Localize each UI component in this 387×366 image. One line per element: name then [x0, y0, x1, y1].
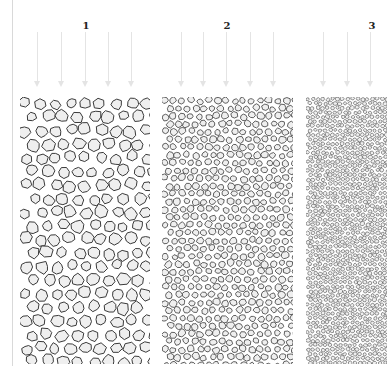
panel-label-3: 3 [369, 20, 376, 31]
grain-panel-2-medium [162, 97, 293, 364]
down-arrow-icon [273, 32, 274, 82]
down-arrow-icon [108, 32, 109, 82]
down-arrow-icon [370, 32, 371, 82]
down-arrow-icon [347, 32, 348, 82]
down-arrow-icon [250, 32, 251, 82]
down-arrow-icon [37, 32, 38, 82]
panel-label-1: 1 [83, 20, 90, 31]
grain-panel-1-coarse [20, 97, 150, 364]
down-arrow-icon [203, 32, 204, 82]
down-arrow-icon [181, 32, 182, 82]
down-arrow-icon [323, 32, 324, 82]
down-arrow-icon [226, 32, 227, 82]
left-border-line [12, 0, 13, 366]
down-arrow-icon [131, 32, 132, 82]
panel-label-2: 2 [224, 20, 231, 31]
down-arrow-icon [85, 32, 86, 82]
grain-panel-3-fine [306, 97, 387, 364]
down-arrow-icon [61, 32, 62, 82]
